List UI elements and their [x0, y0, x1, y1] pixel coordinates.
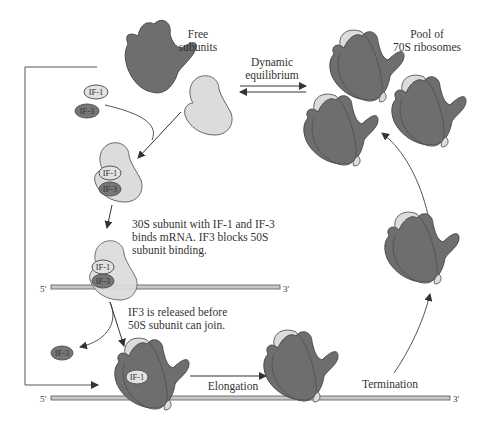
svg-text:IF-3: IF-3: [96, 276, 111, 286]
svg-text:IF-1: IF-1: [103, 168, 118, 178]
ribosome-70s-pool-2: [304, 94, 378, 166]
termination-label: Termination: [362, 378, 418, 390]
if3-released: IF-3: [51, 346, 73, 360]
if3-free: IF-3: [75, 104, 99, 118]
upper-mrna-3prime: 3': [283, 284, 290, 294]
lower-mrna-strand: [51, 396, 450, 400]
svg-text:IF-3: IF-3: [103, 184, 118, 194]
upper-mrna-strand: [51, 285, 280, 289]
svg-text:IF-3: IF-3: [55, 348, 70, 358]
step1-text-1: 30S subunit with IF-1 and IF-3: [132, 218, 275, 230]
30s-mrna-complex: IF-1 IF-3: [90, 241, 137, 300]
lower-mrna-3prime: 3': [453, 394, 460, 404]
pool-label-1: Pool of: [410, 28, 444, 40]
step2-text-2: 50S subunit can join.: [128, 319, 225, 332]
translation-cycle-diagram: Free subunits Dynamic equilibrium Pool o…: [0, 0, 484, 430]
step2-text-1: IF3 is released before: [128, 306, 227, 318]
factors-join-curve: [105, 105, 154, 140]
free-50s-subunit: [125, 20, 196, 93]
50s-join-arrow: [110, 302, 124, 346]
svg-text:IF-1: IF-1: [96, 262, 111, 272]
elongating-ribosome: [264, 330, 338, 402]
if1-free: IF-1: [84, 85, 108, 99]
svg-text:IF-1: IF-1: [130, 372, 145, 382]
termination-arrow: [394, 294, 430, 373]
free-30s-subunit: [185, 76, 232, 135]
svg-text:IF-1: IF-1: [89, 87, 104, 97]
step1-text-2: binds mRNA. IF3 blocks 50S: [132, 231, 268, 243]
free-subunits-label-2: subunits: [179, 41, 218, 53]
elongation-label: Elongation: [208, 380, 259, 393]
if3-release-arrow: [80, 302, 113, 347]
free-subunits-label-1: Free: [188, 28, 208, 40]
equilibrium-label-2: equilibrium: [245, 69, 299, 82]
equilibrium-label-1: Dynamic: [251, 56, 293, 69]
pool-label-2: 70S ribosomes: [393, 41, 462, 53]
step1-text-3: subunit binding.: [132, 244, 207, 257]
ribosome-70s-pool-3: [392, 75, 466, 147]
lower-mrna-5prime: 5': [40, 394, 47, 404]
terminated-ribosome: [385, 212, 459, 284]
upper-mrna-5prime: 5': [40, 284, 47, 294]
30s-if-complex: IF-1 IF-3: [95, 143, 142, 202]
svg-text:IF-3: IF-3: [80, 106, 95, 116]
mrna-binding-arrow: [107, 205, 112, 228]
return-to-pool-arrow: [382, 133, 428, 215]
